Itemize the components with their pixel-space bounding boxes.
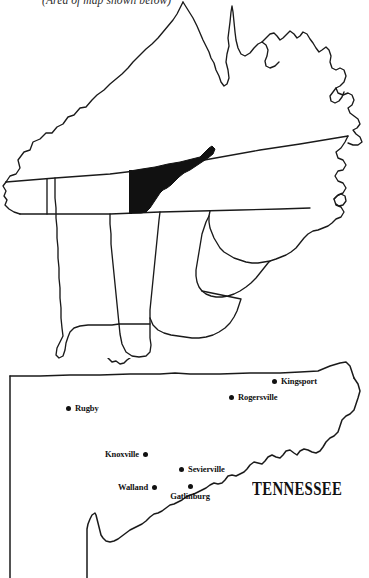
coastline-detail-cape [334, 194, 346, 206]
city-label: Rogersville [238, 392, 278, 402]
city-label: Walland [118, 482, 148, 492]
city-label: Gatlinburg [170, 491, 210, 501]
city-dot-icon [143, 452, 148, 457]
city-label: Kingsport [281, 376, 317, 386]
city-label: Knoxville [105, 449, 139, 459]
city-marker-rugby[interactable]: Rugby [66, 403, 99, 413]
map-fragment-top [108, 358, 130, 364]
city-label: Sevierville [188, 464, 225, 474]
state-outline-west-virginia [183, 2, 279, 86]
state-outline-virginia [262, 31, 362, 145]
city-dot-icon [188, 484, 193, 489]
map-figure-page: (Area of map shown below) [0, 0, 369, 578]
state-outline-south-carolina [196, 216, 270, 297]
highlight-west-edge [129, 170, 132, 214]
state-name-label: TENNESSEE [252, 478, 342, 500]
southeastern-us-locator-map [0, 0, 369, 360]
city-dot-icon [229, 395, 234, 400]
state-border-tennessee-south [20, 208, 310, 214]
city-dot-icon [272, 379, 277, 384]
city-marker-kingsport[interactable]: Kingsport [272, 376, 317, 386]
city-dot-icon [179, 467, 184, 472]
state-border-tennessee-west [3, 182, 20, 214]
state-outline-mississippi [55, 178, 119, 358]
state-outline-kentucky [6, 2, 183, 182]
city-marker-knoxville[interactable]: Knoxville [105, 449, 148, 459]
city-marker-gatlinburg[interactable]: Gatlinburg [168, 484, 212, 501]
city-label: Rugby [75, 403, 99, 413]
city-marker-sevierville[interactable]: Sevierville [179, 464, 225, 474]
city-dot-icon [66, 406, 71, 411]
city-marker-rogersville[interactable]: Rogersville [229, 392, 278, 402]
city-dot-icon [152, 485, 157, 490]
city-marker-walland[interactable]: Walland [118, 482, 157, 492]
highlighted-region-east-tennessee [130, 146, 215, 213]
state-outline-alabama [110, 214, 151, 357]
